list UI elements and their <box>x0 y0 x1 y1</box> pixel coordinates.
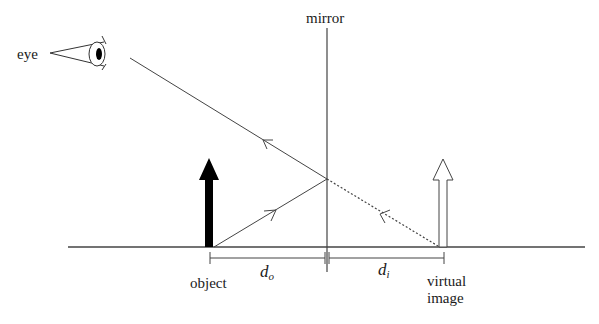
d-o-main: d <box>260 262 269 281</box>
virtual-image-arrow <box>433 159 453 247</box>
eye-icon <box>50 36 106 70</box>
reflected-ray <box>130 58 327 179</box>
plane-mirror-diagram <box>0 0 599 324</box>
virtual-image-label-line2: image <box>427 290 464 306</box>
d-i-subscript: i <box>387 268 390 280</box>
d-o-subscript: o <box>269 270 275 282</box>
object-arrow <box>199 158 219 247</box>
virtual-image-label-line1: virtual <box>427 273 466 289</box>
eye-label: eye <box>17 46 38 62</box>
incident-ray <box>214 179 327 247</box>
d-i-main: d <box>378 260 387 279</box>
mirror-label: mirror <box>306 10 344 26</box>
object-label: object <box>190 275 227 291</box>
d-i-label: di <box>378 262 390 279</box>
d-o-label: do <box>260 264 274 281</box>
